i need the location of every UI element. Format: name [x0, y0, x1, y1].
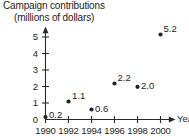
x-tick-label-2000: 2000 — [148, 126, 174, 136]
data-label-1998: 2.0 — [141, 81, 154, 91]
data-point-1996 — [112, 81, 116, 85]
data-point-2000 — [158, 32, 162, 36]
y-tick-label-5: 5 — [26, 32, 38, 42]
data-point-1990 — [43, 115, 47, 119]
x-axis-label: Year — [177, 114, 189, 124]
y-tick-label-2: 2 — [26, 82, 38, 92]
data-point-1994 — [89, 107, 93, 111]
data-point-1992 — [66, 99, 70, 103]
y-axis-arrow-icon — [43, 27, 49, 34]
data-point-1998 — [135, 85, 139, 89]
y-tick-label-1: 1 — [26, 98, 38, 108]
y-tick-label-4: 4 — [26, 49, 38, 59]
x-axis-arrow-icon — [169, 117, 176, 123]
data-label-1992: 1.1 — [72, 91, 85, 101]
y-tick-label-3: 3 — [26, 65, 38, 75]
y-tick-label-0: 0 — [26, 115, 38, 125]
data-label-1994: 0.6 — [95, 104, 108, 114]
data-label-1990: 0.2 — [49, 110, 62, 120]
data-label-2000: 5.2 — [164, 24, 177, 34]
data-label-1996: 2.2 — [118, 73, 131, 83]
campaign-contributions-chart: Campaign contributions (millions of doll… — [0, 0, 189, 140]
